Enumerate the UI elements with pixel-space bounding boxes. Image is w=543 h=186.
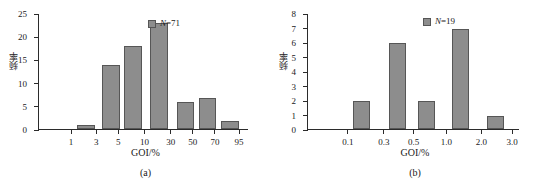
panel-a: 频率 0510152025 1351030507095 N=71 GOI/% (… — [0, 0, 271, 186]
panel-a-y-axis-label: 频率 — [9, 52, 18, 70]
a-x-tick-label: 30 — [166, 138, 175, 147]
a-x-tick-label: 10 — [140, 138, 149, 147]
a-x-tick: 1 — [71, 130, 72, 134]
panel-b-legend: N=19 — [423, 17, 455, 26]
b-y-tick: 0 — [303, 130, 308, 131]
bar — [418, 101, 435, 129]
panel-a-x-axis-label: GOI/% — [10, 148, 281, 158]
b-x-tick: 0.3 — [383, 130, 384, 134]
panel-b-legend-label: N=19 — [435, 17, 455, 26]
b-y-tick-label: 5 — [292, 53, 297, 62]
b-x-tick-label: 0.1 — [342, 138, 353, 147]
a-x-tick: 10 — [144, 130, 145, 134]
b-y-tick: 1 — [303, 115, 308, 116]
b-y-tick: 5 — [303, 57, 308, 58]
a-x-tick-label: 70 — [210, 138, 219, 147]
b-y-tick: 4 — [303, 72, 308, 73]
legend-swatch-icon — [148, 20, 156, 28]
b-y-tick: 6 — [303, 43, 308, 44]
a-x-tick: 5 — [118, 130, 119, 134]
bar — [199, 98, 217, 129]
a-y-tick-label: 10 — [18, 79, 27, 88]
a-x-tick-label: 5 — [116, 138, 121, 147]
panel-a-y-axis-line — [38, 14, 39, 130]
a-y-tick: 10 — [34, 83, 39, 84]
a-y-tick-label: 15 — [18, 56, 27, 65]
bar — [353, 101, 370, 129]
panel-b-legend-value: 19 — [446, 16, 455, 26]
b-y-tick-label: 4 — [292, 68, 297, 77]
a-x-tick-label: 50 — [188, 138, 197, 147]
a-x-tick-label: 1 — [69, 138, 74, 147]
a-y-tick: 15 — [34, 60, 39, 61]
b-x-tick-label: 2.0 — [476, 138, 487, 147]
bar — [452, 29, 469, 130]
bar — [487, 116, 504, 130]
b-x-tick: 1.0 — [446, 130, 447, 134]
bar — [389, 43, 406, 129]
a-y-tick-label: 25 — [18, 10, 27, 19]
panel-b: 频率 012345678 0.10.30.51.02.03.0 N=19 GOI… — [271, 0, 543, 186]
bar — [221, 121, 239, 129]
a-y-tick: 5 — [34, 106, 39, 107]
panel-a-legend: N=71 — [148, 19, 180, 28]
legend-swatch-icon — [423, 18, 431, 26]
a-y-tick-label: 5 — [23, 102, 28, 111]
b-x-tick-label: 1.0 — [441, 138, 452, 147]
a-x-tick: 30 — [170, 130, 171, 134]
b-x-tick: 2.0 — [481, 130, 482, 134]
panel-a-legend-value: 71 — [171, 18, 180, 28]
a-x-tick: 70 — [214, 130, 215, 134]
a-y-tick-label: 20 — [18, 33, 27, 42]
panel-b-plot-area: 012345678 0.10.30.51.02.03.0 — [307, 14, 519, 130]
a-x-tick-label: 3 — [94, 138, 99, 147]
panel-a-plot-area: 0510152025 1351030507095 — [38, 14, 248, 130]
panel-b-x-axis-label: GOI/% — [279, 148, 543, 158]
panel-a-legend-label: N=71 — [160, 19, 180, 28]
b-y-tick-label: 7 — [292, 24, 297, 33]
bar — [77, 125, 95, 129]
a-x-tick-label: 95 — [235, 138, 244, 147]
b-y-tick-label: 3 — [292, 82, 297, 91]
b-x-tick: 3.0 — [512, 130, 513, 134]
a-y-tick-label: 0 — [23, 126, 28, 135]
b-y-tick-label: 2 — [292, 97, 297, 106]
bar — [102, 65, 120, 129]
a-x-tick: 95 — [239, 130, 240, 134]
b-y-tick-label: 8 — [292, 10, 297, 19]
bar — [177, 102, 195, 129]
a-y-tick: 25 — [34, 14, 39, 15]
panel-b-y-axis-label: 频率 — [279, 52, 288, 70]
figure-two-panel-histograms: 频率 0510152025 1351030507095 N=71 GOI/% (… — [0, 0, 543, 186]
panel-a-caption: (a) — [10, 168, 281, 178]
b-x-tick-label: 0.5 — [408, 138, 419, 147]
a-y-tick: 0 — [34, 130, 39, 131]
b-y-tick: 3 — [303, 86, 308, 87]
panel-a-x-axis-line — [38, 129, 248, 130]
a-y-tick: 20 — [34, 37, 39, 38]
panel-b-caption: (b) — [279, 168, 543, 178]
b-x-tick-label: 3.0 — [506, 138, 517, 147]
b-x-tick: 0.5 — [413, 130, 414, 134]
b-y-tick-label: 6 — [292, 39, 297, 48]
b-x-tick: 0.1 — [347, 130, 348, 134]
a-x-tick: 3 — [96, 130, 97, 134]
b-y-tick-label: 1 — [292, 111, 297, 120]
bar — [124, 46, 142, 129]
b-y-tick: 8 — [303, 14, 308, 15]
b-y-tick-label: 0 — [292, 126, 297, 135]
b-y-tick: 7 — [303, 28, 308, 29]
b-x-tick-label: 0.3 — [378, 138, 389, 147]
bar — [150, 23, 168, 129]
b-y-tick: 2 — [303, 101, 308, 102]
a-x-tick: 50 — [192, 130, 193, 134]
